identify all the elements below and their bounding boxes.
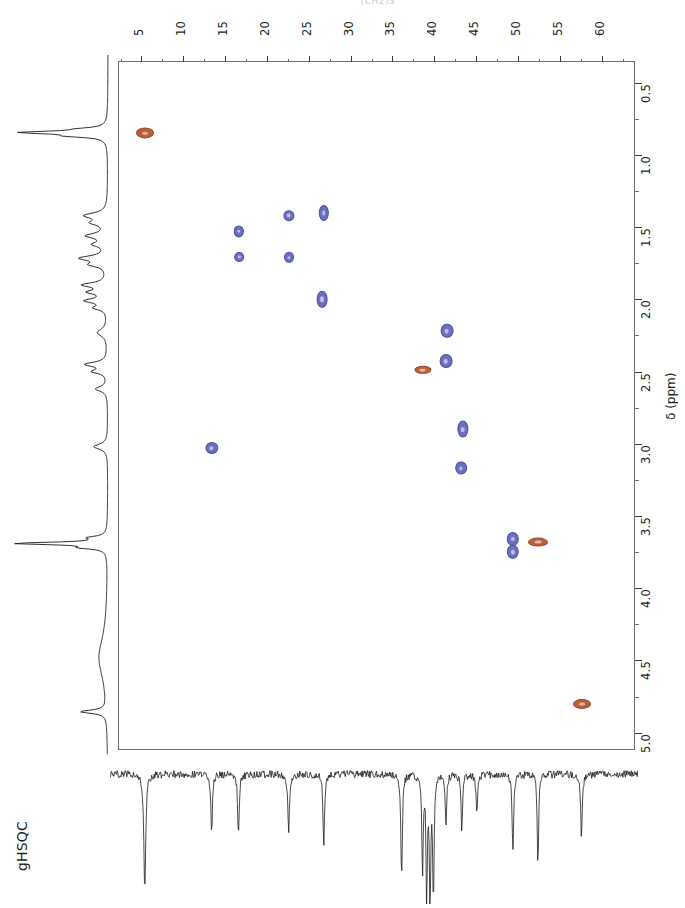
proton-axis-title: δ (ppm) [664,373,678,420]
carbon-axis-major-tick [476,56,477,62]
carbon-axis-tick-label: 35 [383,21,397,36]
carbon-axis-major-tick [518,56,519,62]
proton-axis-tick-label: 3.5 [639,517,653,536]
carbon-axis-tick-label: 25 [300,21,314,36]
carbon-axis-major-tick [225,56,226,62]
carbon-trace-path [110,770,638,904]
carbon-axis-tick-label: 5 [132,28,146,36]
proton-axis-minor-tick [635,408,639,409]
carbon-axis-tick-label: 60 [593,21,607,36]
proton-axis-minor-tick [635,697,639,698]
proton-axis-minor-tick [635,480,639,481]
carbon-axis-minor-tick [204,59,205,62]
proton-axis-minor-tick [635,119,639,120]
carbon-axis-major-tick [267,56,268,62]
carbon-axis-major-tick [141,56,142,62]
proton-trace-path [15,55,108,754]
proton-axis-minor-tick [635,552,639,553]
carbon-axis-major-tick [560,56,561,62]
proton-axis-minor-tick [635,263,639,264]
nmr-spectrum-figure: (CH2)3 gHSQC δ (ppm) 5101520253035404550… [0,0,685,908]
proton-axis-tick-label: 2.0 [639,300,653,319]
proton-axis-tick-label: 5.0 [639,733,653,752]
carbon-axis-major-tick [602,56,603,62]
carbon-axis-minor-tick [581,59,582,62]
proton-axis-tick-label: 4.5 [639,661,653,680]
carbon-axis-minor-tick [372,59,373,62]
carbon-axis-major-tick [183,56,184,62]
carbon-axis-tick-label: 10 [174,21,188,36]
carbon-axis-minor-tick [413,59,414,62]
carbon-axis-minor-tick [623,59,624,62]
carbon-axis-minor-tick [455,59,456,62]
proton-axis-tick-label: 2.5 [639,372,653,391]
carbon-axis-minor-tick [539,59,540,62]
carbon-axis-tick-label: 40 [425,21,439,36]
plot-frame [118,61,635,750]
carbon-axis-minor-tick [330,59,331,62]
carbon-axis-major-tick [434,56,435,62]
proton-axis-tick-label: 1.5 [639,228,653,247]
proton-axis-tick-label: 0.5 [639,83,653,102]
structure-caption: (CH2)3 [333,0,423,8]
proton-axis-minor-tick [635,335,639,336]
proton-axis-tick-label: 1.0 [639,156,653,175]
carbon-axis-minor-tick [497,59,498,62]
carbon-axis-minor-tick [162,59,163,62]
carbon-axis-minor-tick [288,59,289,62]
proton-1d-projection-trace [12,55,120,755]
proton-axis-minor-tick [635,191,639,192]
carbon-axis-tick-label: 15 [216,21,230,36]
carbon-axis-major-tick [351,56,352,62]
carbon-axis-tick-label: 50 [509,21,523,36]
carbon-axis-top [118,57,635,62]
carbon-1d-projection-trace [110,752,638,904]
experiment-label: gHSQC [14,806,30,886]
carbon-axis-major-tick [392,56,393,62]
carbon-axis-tick-label: 30 [342,21,356,36]
proton-axis-tick-label: 3.0 [639,445,653,464]
carbon-axis-major-tick [309,56,310,62]
carbon-axis-minor-tick [121,59,122,62]
carbon-axis-minor-tick [246,59,247,62]
carbon-axis-tick-label: 55 [551,21,565,36]
carbon-axis-tick-label: 20 [258,21,272,36]
carbon-axis-tick-label: 45 [467,21,481,36]
proton-axis-minor-tick [635,624,639,625]
proton-axis-tick-label: 4.0 [639,589,653,608]
